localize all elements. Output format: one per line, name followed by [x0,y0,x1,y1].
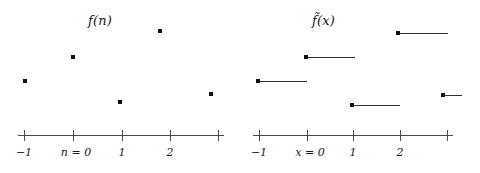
step-endpoint-dot [396,31,400,35]
axis-tick [447,130,448,141]
panel-discrete-samples: f(n) −1 n = 0 1 2 [0,0,240,173]
figure-canvas: f(n) −1 n = 0 1 2 f̃(x) −1 x = 0 1 2 [0,0,480,173]
panel-step-extension: f̃(x) −1 x = 0 1 2 [240,0,480,173]
step-endpoint-dot [441,93,445,97]
axis-tick [24,130,25,141]
panel-title-right: f̃(x) [312,13,335,28]
step-endpoint-dot [350,103,354,107]
tick-label-origin-right: x = 0 [295,146,324,159]
tick-label-one-left: 1 [119,146,126,159]
axis-tick [122,130,123,141]
tick-label-origin-left: n = 0 [61,146,91,159]
axis-tick [307,130,308,141]
tick-label-two-right: 2 [397,146,404,159]
data-point [23,79,27,83]
step-segment [352,105,400,106]
data-point [118,100,122,104]
data-point [158,29,162,33]
axis-tick [400,130,401,141]
tick-label-minus-one-left: −1 [16,146,32,159]
axis-tick [73,130,74,141]
step-segment [306,57,355,58]
step-endpoint-dot [256,79,260,83]
tick-label-minus-one-right: −1 [251,146,267,159]
x-axis-left [18,135,224,136]
step-endpoint-dot [304,55,308,59]
axis-tick [218,130,219,141]
step-segment [258,81,307,82]
axis-tick [259,130,260,141]
data-point [209,92,213,96]
tick-label-two-left: 2 [167,146,174,159]
panel-title-left: f(n) [88,13,112,28]
step-segment [398,33,448,34]
step-segment [443,95,462,96]
tick-label-one-right: 1 [350,146,357,159]
axis-tick [170,130,171,141]
axis-tick [353,130,354,141]
data-point [71,55,75,59]
